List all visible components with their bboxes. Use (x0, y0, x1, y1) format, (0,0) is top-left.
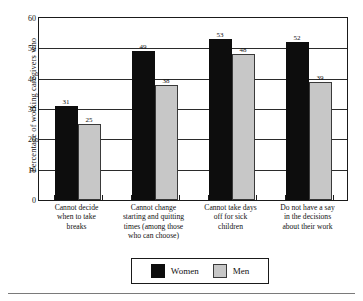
bar-men-2: 38 (155, 85, 178, 200)
bar-value-label: 49 (140, 43, 147, 51)
gray-square-swatch-icon (213, 264, 227, 278)
category-label-4: Do not have a sayin the decisionsabout t… (265, 203, 350, 231)
bar-chart-figure: Percentage of working caregivers who 010… (0, 0, 363, 301)
y-axis-tick-label: 20 (6, 135, 36, 144)
y-axis-tick-label: 30 (6, 105, 36, 114)
x-axis-tick (131, 195, 132, 201)
bar-value-label: 25 (86, 116, 93, 124)
category-label-line: in the decisions (265, 212, 350, 221)
y-axis-tick-label: 50 (6, 44, 36, 53)
plot-area: 0102030405060 3149535225384839 (38, 17, 348, 201)
category-label-line: when to take (34, 212, 119, 221)
x-axis-tick (179, 195, 180, 201)
x-axis-category-labels: Cannot decidewhen to takebreaksCannot ch… (38, 203, 348, 249)
category-label-3: Cannot take daysoff for sickchildren (188, 203, 273, 231)
x-axis-tick (333, 195, 334, 201)
bar-women-3: 53 (209, 39, 232, 200)
footer-divider (8, 293, 355, 294)
category-label-line: breaks (34, 222, 119, 231)
category-label-line: children (188, 222, 273, 231)
category-label-line: Do not have a say (265, 203, 350, 212)
category-label-line: off for sick (188, 212, 273, 221)
legend-item-women: Women (151, 264, 199, 278)
bar-value-label: 53 (217, 31, 224, 39)
x-axis-tick (256, 195, 257, 201)
category-label-line: Cannot decide (34, 203, 119, 212)
bar-women-2: 49 (132, 51, 155, 200)
y-axis-tick-label: 60 (6, 14, 36, 23)
category-label-line: Cannot change (111, 203, 196, 212)
bar-value-label: 52 (294, 34, 301, 42)
legend-label-men: Men (233, 266, 250, 276)
x-axis-tick (285, 195, 286, 201)
category-label-line: Cannot take days (188, 203, 273, 212)
chart-legend: Women Men (131, 258, 269, 284)
y-axis-tick-label: 10 (6, 165, 36, 174)
bar-value-label: 39 (317, 74, 324, 82)
bar-value-label: 31 (63, 98, 70, 106)
bar-women-4: 52 (286, 42, 309, 200)
bar-value-label: 38 (163, 77, 170, 85)
x-axis-tick (208, 195, 209, 201)
x-axis-tick (102, 195, 103, 201)
black-square-swatch-icon (151, 264, 165, 278)
category-label-line: times (among those (111, 222, 196, 231)
y-axis-tick-label: 0 (6, 196, 36, 205)
bar-men-4: 39 (309, 82, 332, 200)
legend-label-women: Women (171, 266, 199, 276)
y-axis-tick-label: 40 (6, 74, 36, 83)
bar-series-container: 3149535225384839 (39, 18, 347, 200)
category-label-line: who can choose) (111, 231, 196, 240)
bar-value-label: 48 (240, 46, 247, 54)
bar-men-3: 48 (232, 54, 255, 200)
category-label-1: Cannot decidewhen to takebreaks (34, 203, 119, 231)
bar-men-1: 25 (78, 124, 101, 200)
bar-women-1: 31 (55, 106, 78, 200)
legend-item-men: Men (213, 264, 250, 278)
category-label-line: starting and quitting (111, 212, 196, 221)
x-axis-tick (54, 195, 55, 201)
category-label-2: Cannot changestarting and quittingtimes … (111, 203, 196, 241)
category-label-line: about their work (265, 222, 350, 231)
